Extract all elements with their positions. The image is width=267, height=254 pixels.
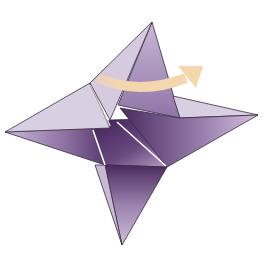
origami-star-illustration: [0, 0, 267, 254]
right-point-upper-flap: [173, 96, 258, 118]
left-point-lower-wing: [5, 128, 105, 165]
bottom-point-face: [105, 165, 167, 245]
origami-diagram: [0, 0, 267, 254]
